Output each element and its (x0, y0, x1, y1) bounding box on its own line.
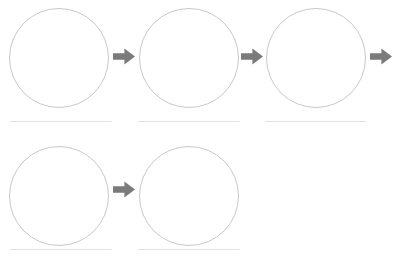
row-2 (0, 0, 397, 262)
worksheet-canvas (0, 0, 397, 262)
circle-5[interactable] (139, 146, 239, 246)
circle-4-write-line[interactable] (10, 249, 112, 250)
block-arrow-right-icon (113, 181, 135, 198)
circle-4[interactable] (9, 146, 109, 246)
circle-5-write-line[interactable] (138, 249, 240, 250)
